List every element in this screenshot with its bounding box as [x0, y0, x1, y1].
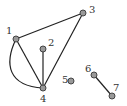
edge-1-3 — [16, 13, 83, 39]
node-3 — [80, 10, 86, 16]
node-label-3: 3 — [89, 4, 95, 15]
node-6 — [91, 72, 97, 78]
node-7 — [109, 93, 115, 99]
graph-diagram: 1234567 — [0, 0, 127, 106]
node-5 — [68, 78, 74, 84]
edge-1-4 — [16, 39, 43, 88]
node-label-6: 6 — [85, 63, 91, 74]
node-1 — [13, 36, 19, 42]
edge-6-7 — [94, 75, 112, 96]
edges — [10, 13, 112, 96]
labels: 1234567 — [6, 4, 119, 104]
node-2 — [40, 46, 46, 52]
node-label-7: 7 — [113, 82, 119, 93]
node-label-1: 1 — [6, 25, 12, 36]
node-label-2: 2 — [48, 37, 54, 48]
node-4 — [40, 85, 46, 91]
node-label-5: 5 — [62, 74, 68, 85]
node-label-4: 4 — [40, 93, 46, 104]
edge-1-4-curved — [10, 39, 43, 88]
